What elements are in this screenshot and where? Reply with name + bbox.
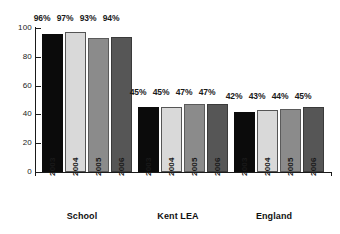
y-tick-label-40: 40	[4, 110, 32, 118]
year-label-england-2004: 2004	[264, 146, 272, 176]
group-label-kentlea: Kent LEA	[132, 212, 224, 221]
year-label-england-2003: 2003	[241, 146, 249, 176]
year-label-kentlea-2004: 2004	[168, 146, 176, 176]
year-label-england-2006: 2006	[310, 146, 318, 176]
year-label-kentlea-2003: 2003	[145, 146, 153, 176]
year-label-school-2006: 2006	[118, 146, 126, 176]
bar-chart: 100 80 60 40 20 0 96% 97% 93% 94% 45% 45…	[0, 0, 340, 234]
year-label-kentlea-2006: 2006	[214, 146, 222, 176]
x-axis-left-cap	[35, 172, 36, 176]
year-label-school-2003: 2003	[49, 146, 57, 176]
group-label-england: England	[228, 212, 320, 221]
value-label-england-2006: 45%	[288, 92, 318, 101]
x-axis-right-cap	[331, 172, 332, 176]
value-label-school-2006: 94%	[96, 14, 126, 23]
y-tick-label-0: 0	[4, 168, 32, 176]
y-tick-label-20: 20	[4, 139, 32, 147]
year-label-school-2005: 2005	[95, 146, 103, 176]
y-tick-label-60: 60	[4, 82, 32, 90]
y-tick-label-100: 100	[4, 24, 32, 32]
year-label-england-2005: 2005	[287, 146, 295, 176]
year-label-kentlea-2005: 2005	[191, 146, 199, 176]
group-label-school: School	[36, 212, 128, 221]
value-label-kentlea-2006: 47%	[192, 88, 222, 97]
y-tick-label-80: 80	[4, 53, 32, 61]
year-label-school-2004: 2004	[72, 146, 80, 176]
